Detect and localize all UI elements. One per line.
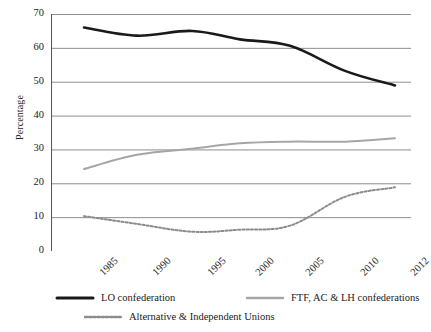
legend-item[interactable]: Alternative & Independent Unions: [83, 311, 275, 322]
y-tick-label: 20: [20, 176, 44, 187]
y-tick-label: 40: [20, 109, 44, 120]
plot-svg: [51, 14, 411, 251]
solid-black-line-icon: [55, 293, 95, 303]
legend-item[interactable]: LO confederation: [55, 292, 175, 303]
x-tick-label: 1985: [97, 255, 120, 278]
axis-lines: [51, 14, 396, 251]
y-tick-label: 50: [20, 75, 44, 86]
y-tick-label: 30: [20, 142, 44, 153]
y-tick-label: 0: [20, 244, 44, 255]
legend-label: FTF, AC & LH confederations: [291, 292, 419, 303]
solid-gray-line-icon: [245, 293, 285, 303]
legend-item[interactable]: FTF, AC & LH confederations: [245, 292, 419, 303]
gridlines: [51, 15, 411, 252]
series-line-2: [84, 187, 395, 232]
chart-legend: LO confederationFTF, AC & LH confederati…: [0, 292, 431, 332]
series-line-1: [84, 138, 395, 169]
x-tick-label: 2010: [358, 255, 381, 278]
legend-label: Alternative & Independent Unions: [129, 311, 275, 322]
x-tick-label: 2000: [253, 255, 276, 278]
series-line-0: [84, 28, 395, 86]
y-tick-label: 60: [20, 41, 44, 52]
chart-figure: Percentage 706050403020100 1985199019952…: [0, 0, 431, 332]
y-tick-label: 70: [20, 7, 44, 18]
x-axis-tick-labels: 1985199019952000200520102012: [0, 255, 431, 295]
x-tick-label: 1990: [150, 255, 173, 278]
dotted-gray-line-icon: [83, 312, 123, 322]
y-axis-tick-labels: 706050403020100: [14, 0, 44, 270]
x-tick-label: 1995: [205, 255, 228, 278]
legend-label: LO confederation: [101, 292, 175, 303]
x-tick-label: 2005: [303, 255, 326, 278]
plot-area: [51, 14, 411, 251]
y-tick-label: 10: [20, 210, 44, 221]
x-tick-label: 2012: [408, 255, 431, 278]
